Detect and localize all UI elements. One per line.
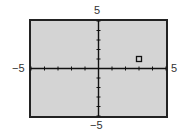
x-max-label: 5: [171, 63, 177, 74]
y-min-label: −5: [90, 120, 103, 130]
x-min-label: −5: [12, 63, 25, 74]
calculator-plot-window: [29, 19, 168, 118]
y-max-label: 5: [94, 5, 100, 16]
